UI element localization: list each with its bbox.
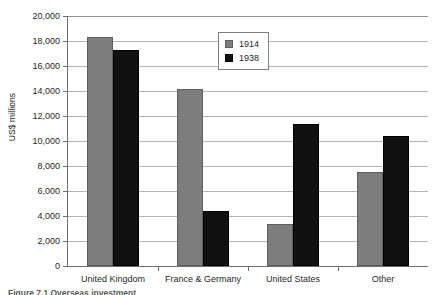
bar-chart-figure: US$ millions 20,00018,00016,00014,00012,… <box>0 0 440 295</box>
y-tick-label: 12,000 <box>32 111 60 121</box>
y-tick-mark <box>63 241 68 242</box>
legend-item-1914: 1914 <box>225 37 259 51</box>
bar-1938-united-kingdom <box>113 50 139 266</box>
y-tick-mark <box>63 191 68 192</box>
y-tick-label: 4,000 <box>37 211 60 221</box>
x-category-label: Other <box>372 274 395 284</box>
y-tick-label: 8,000 <box>37 161 60 171</box>
y-tick-label: 6,000 <box>37 186 60 196</box>
bar-1938-other <box>383 136 409 266</box>
bar-1914-other <box>357 172 383 266</box>
y-tick-mark <box>63 116 68 117</box>
legend-swatch-icon-1938 <box>225 54 233 62</box>
y-tick-mark <box>63 16 68 17</box>
y-tick-label: 0 <box>55 261 60 271</box>
y-axis-title: US$ millions <box>7 72 17 162</box>
chart-legend: 1914 1938 <box>218 32 269 70</box>
figure-caption: Figure 7.1 Overseas investment <box>8 288 136 295</box>
legend-item-1938: 1938 <box>225 51 259 65</box>
y-tick-mark <box>63 91 68 92</box>
x-category-label: France & Germany <box>165 274 241 284</box>
bar-group <box>267 16 319 266</box>
bar-1914-france-germany <box>177 89 203 266</box>
y-tick-label: 2,000 <box>37 236 60 246</box>
y-tick-mark <box>63 216 68 217</box>
y-tick-label: 10,000 <box>32 136 60 146</box>
legend-label-1914: 1914 <box>239 39 259 49</box>
y-tick-mark <box>63 66 68 67</box>
legend-label-1938: 1938 <box>239 53 259 63</box>
legend-swatch-icon-1914 <box>225 40 233 48</box>
y-tick-mark <box>63 166 68 167</box>
y-tick-mark <box>63 266 68 267</box>
y-tick-label: 20,000 <box>32 11 60 21</box>
x-tick-mark <box>338 266 339 271</box>
bar-1914-united-states <box>267 224 293 266</box>
y-tick-label: 18,000 <box>32 36 60 46</box>
y-tick-mark <box>63 141 68 142</box>
x-tick-mark <box>248 266 249 271</box>
bar-group <box>357 16 409 266</box>
x-category-label: United Kingdom <box>81 274 145 284</box>
x-category-label: United States <box>266 274 320 284</box>
bar-1914-united-kingdom <box>87 37 113 266</box>
y-tick-mark <box>63 41 68 42</box>
plot-area: 20,00018,00016,00014,00012,00010,0008,00… <box>68 16 428 266</box>
bar-1938-france-germany <box>203 211 229 266</box>
y-tick-label: 16,000 <box>32 61 60 71</box>
bar-group <box>87 16 139 266</box>
bar-1938-united-states <box>293 124 319 266</box>
x-tick-mark <box>158 266 159 271</box>
y-tick-label: 14,000 <box>32 86 60 96</box>
